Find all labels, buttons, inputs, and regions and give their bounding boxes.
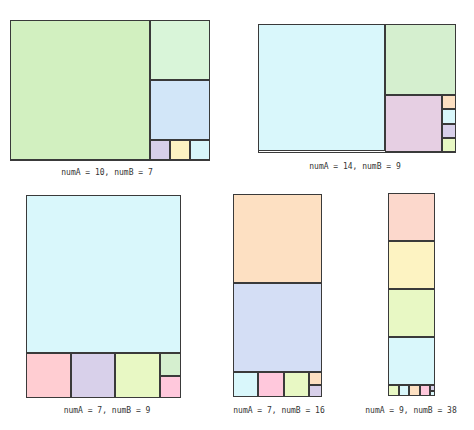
figure-outline-5	[388, 193, 435, 396]
figure-label-3: numA = 7, numB = 9	[64, 406, 151, 415]
figure-outline-2	[258, 24, 456, 153]
figure-outline-1	[10, 20, 210, 161]
figure-label-4: numA = 7, numB = 16	[233, 406, 325, 415]
figure-outline-4	[233, 194, 322, 397]
figure-label-2: numA = 14, numB = 9	[309, 162, 401, 171]
figure-label-5: numA = 9, numB = 38	[365, 406, 457, 415]
figure-label-1: numA = 10, numB = 7	[61, 168, 153, 177]
figure-outline-3	[26, 195, 181, 398]
